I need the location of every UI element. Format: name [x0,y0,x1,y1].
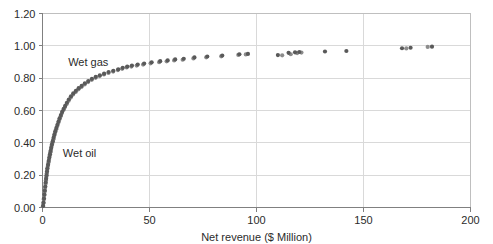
y-tick-label: 0.80 [14,72,35,84]
data-point [287,51,291,55]
data-point [293,50,297,54]
data-point [90,77,94,81]
data-point [45,166,49,170]
series-annotation: Wet oil [63,147,96,159]
data-point [276,53,280,57]
data-point [44,177,48,181]
data-point [430,45,434,49]
chart-container: 0.000.200.400.600.801.001.20050100150200… [0,0,493,244]
x-axis-title: Net revenue ($ Million) [201,231,312,243]
data-point [220,53,224,57]
data-point [44,173,48,177]
data-point [43,184,47,188]
data-point [297,50,301,54]
data-point [426,45,430,49]
data-point [41,201,45,205]
data-point [44,180,48,184]
scatter-chart: 0.000.200.400.600.801.001.20050100150200… [0,0,493,244]
series-annotation: Wet gas [68,56,109,68]
data-point [107,70,111,74]
data-point [173,57,177,61]
data-point [86,79,90,83]
data-point [111,69,115,73]
data-point [400,46,404,50]
data-point [166,58,170,62]
data-point [47,159,51,163]
data-point [150,60,154,64]
x-tick-label: 150 [354,214,372,226]
y-tick-label: 1.20 [14,8,35,20]
data-point [142,62,146,66]
data-point [98,73,102,77]
data-point [280,53,284,57]
x-tick-label: 50 [143,214,155,226]
data-point [125,64,129,68]
data-point [246,52,250,56]
data-point [43,188,47,192]
data-point [192,55,196,59]
y-tick-label: 0.00 [14,202,35,214]
y-tick-label: 0.60 [14,105,35,117]
data-point [130,63,134,67]
data-point [408,46,412,50]
y-tick-label: 1.00 [14,40,35,52]
data-point [121,66,125,70]
data-point [42,197,46,201]
y-tick-label: 0.40 [14,137,35,149]
data-point [237,52,241,56]
data-point [136,62,140,66]
x-tick-label: 0 [39,214,45,226]
data-point [94,75,98,79]
data-point [205,54,209,58]
data-point [116,67,120,71]
x-tick-label: 100 [247,214,265,226]
data-point [46,163,50,167]
x-tick-label: 200 [461,214,479,226]
data-point [83,81,87,85]
data-point [323,49,327,53]
y-tick-label: 0.20 [14,169,35,181]
data-point [102,72,106,76]
data-point [51,139,55,143]
data-point [404,46,408,50]
data-point [42,192,46,196]
data-point [182,57,186,61]
data-point [158,59,162,63]
data-point [344,49,348,53]
